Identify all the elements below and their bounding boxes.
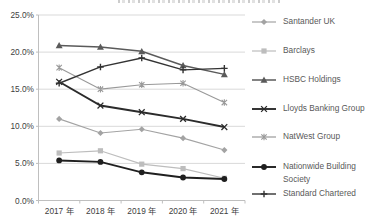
y-axis-tick-label: 0.0% (15, 196, 35, 206)
legend-item-santander-uk: Santander UK (252, 15, 335, 28)
legend-marker-x-icon (252, 104, 276, 114)
legend-marker-diamond-icon (252, 17, 276, 27)
series-barclays (57, 148, 227, 181)
y-axis-tick-label: 25.0% (10, 10, 34, 20)
legend-label: Nationwide Building Society (283, 160, 371, 186)
x-axis-tick-label: 2021 年 (210, 206, 239, 216)
y-axis-tick-label: 15.0% (10, 84, 34, 94)
legend-label: Santander UK (283, 15, 335, 28)
legend-marker-asterisk-icon (252, 132, 276, 142)
legend-label: NatWest Group (283, 130, 340, 143)
x-axis-tick-label: 2019 年 (127, 206, 156, 216)
series-nationwide-building-society (56, 158, 227, 182)
legend-marker-plus-icon (252, 189, 276, 199)
series-santander-uk (56, 116, 227, 153)
x-axis-tick-label: 2018 年 (86, 206, 115, 216)
legend-item-natwest-group: NatWest Group (252, 130, 340, 143)
legend-item-standard-chartered: Standard Chartered (252, 187, 356, 200)
legend-label: Lloyds Banking Group (283, 102, 365, 115)
legend-item-nationwide-building-society: Nationwide Building Society (252, 160, 371, 186)
y-axis-tick-label: 5.0% (15, 158, 35, 168)
legend-marker-circle-icon (252, 162, 276, 172)
x-axis-tick-label: 2020 年 (169, 206, 198, 216)
legend-label: HSBC Holdings (283, 73, 341, 86)
chart-legend: Santander UK Barclays HSBC Holdings Lloy… (252, 0, 376, 220)
x-axis-tick-label: 2017 年 (45, 206, 74, 216)
legend-marker-square-icon (252, 46, 276, 56)
y-axis-tick-label: 10.0% (10, 121, 34, 131)
legend-marker-triangle-icon (252, 75, 276, 85)
legend-label: Barclays (283, 44, 315, 57)
legend-item-lloyds-banking-group: Lloyds Banking Group (252, 102, 365, 115)
line-chart-panel: 25.0%20.0%15.0%10.0%5.0%0.0%2017 年2018 年… (0, 0, 376, 220)
series-natwest-group (56, 64, 227, 105)
legend-item-hsbc-holdings: HSBC Holdings (252, 73, 341, 86)
y-axis-tick-label: 20.0% (10, 47, 34, 57)
legend-label: Standard Chartered (283, 187, 356, 200)
legend-item-barclays: Barclays (252, 44, 315, 57)
